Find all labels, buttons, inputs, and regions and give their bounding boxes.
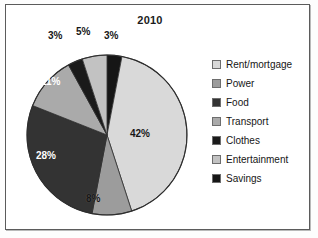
legend-item-transport[interactable]: Transport	[212, 112, 312, 131]
legend-item-food[interactable]: Food	[212, 93, 312, 112]
pie-svg	[18, 28, 198, 228]
slice-label-transport: 11%	[41, 76, 60, 87]
legend-item-label: Clothes	[226, 135, 260, 146]
legend-swatch-icon	[212, 174, 221, 183]
legend-item-label: Food	[226, 97, 249, 108]
legend-swatch-icon	[212, 136, 221, 145]
legend-item-label: Savings	[226, 173, 262, 184]
slice-label-clothes: 3%	[48, 30, 62, 41]
legend-item-label: Rent/mortgage	[226, 59, 292, 70]
legend-item-savings[interactable]: Savings	[212, 169, 312, 188]
legend-item-label: Power	[226, 78, 254, 89]
chart-legend: Rent/mortgage Power Food Transport Cloth…	[212, 55, 312, 188]
pie-chart: 3% 5% 3% 42% 8% 28% 11%	[18, 28, 198, 228]
page-title: 2010	[90, 14, 210, 26]
legend-item-rent-mortgage[interactable]: Rent/mortgage	[212, 55, 312, 74]
legend-swatch-icon	[212, 98, 221, 107]
chart-canvas: 2010 3% 5% 3% 42% 8% 28% 11% Rent/mortga…	[0, 0, 318, 238]
legend-item-power[interactable]: Power	[212, 74, 312, 93]
slice-label-savings: 3%	[104, 30, 118, 41]
slice-label-rent: 42%	[130, 128, 150, 139]
legend-swatch-icon	[212, 60, 221, 69]
legend-item-clothes[interactable]: Clothes	[212, 131, 312, 150]
slice-label-food: 28%	[36, 150, 56, 161]
legend-item-entertainment[interactable]: Entertainment	[212, 150, 312, 169]
legend-swatch-icon	[212, 117, 221, 126]
legend-swatch-icon	[212, 155, 221, 164]
slice-label-power: 8%	[86, 193, 100, 204]
slice-label-entertainment: 5%	[76, 26, 90, 37]
legend-item-label: Transport	[226, 116, 268, 127]
legend-swatch-icon	[212, 79, 221, 88]
legend-item-label: Entertainment	[226, 154, 288, 165]
